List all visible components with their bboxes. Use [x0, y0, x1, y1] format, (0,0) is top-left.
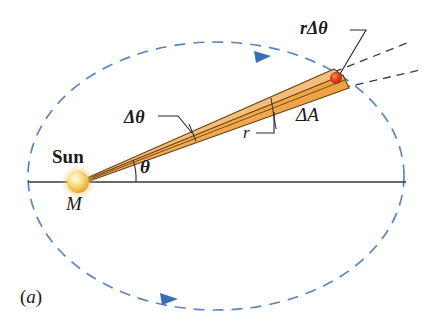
delta-theta-label: Δθ: [124, 108, 145, 126]
radius-extension-rays: [334, 41, 420, 88]
panel-caption-letter: a: [26, 286, 36, 307]
kepler-second-law-figure: Sun M θ Δθ r ΔA rΔθ (a): [0, 0, 432, 334]
delta-area-label: ΔA: [296, 105, 319, 124]
extension-ray-lower: [342, 70, 420, 88]
leader-arc-length: [340, 30, 366, 74]
mass-label: M: [66, 194, 82, 213]
theta-label: θ: [140, 157, 150, 176]
panel-caption: (a): [20, 287, 42, 306]
planet-body: [331, 73, 342, 84]
arrow-head-top: [254, 51, 271, 63]
figure-canvas: [0, 0, 432, 334]
planet-disc: [331, 73, 342, 84]
sun-label: Sun: [52, 147, 84, 166]
arrow-head-bottom: [160, 293, 178, 305]
extension-ray-upper: [334, 41, 412, 72]
panel-caption-close: ): [36, 286, 42, 307]
sun-disc: [67, 171, 89, 193]
radius-label: r: [243, 124, 250, 141]
wedge-inner-chord: [82, 80, 345, 183]
swept-area-wedge: [80, 69, 349, 184]
leader-delta-theta: [158, 116, 192, 133]
orbit-direction-arrow-top: [254, 51, 271, 63]
orbit-direction-arrow-bottom: [160, 293, 178, 305]
arc-length-label: rΔθ: [300, 19, 328, 37]
